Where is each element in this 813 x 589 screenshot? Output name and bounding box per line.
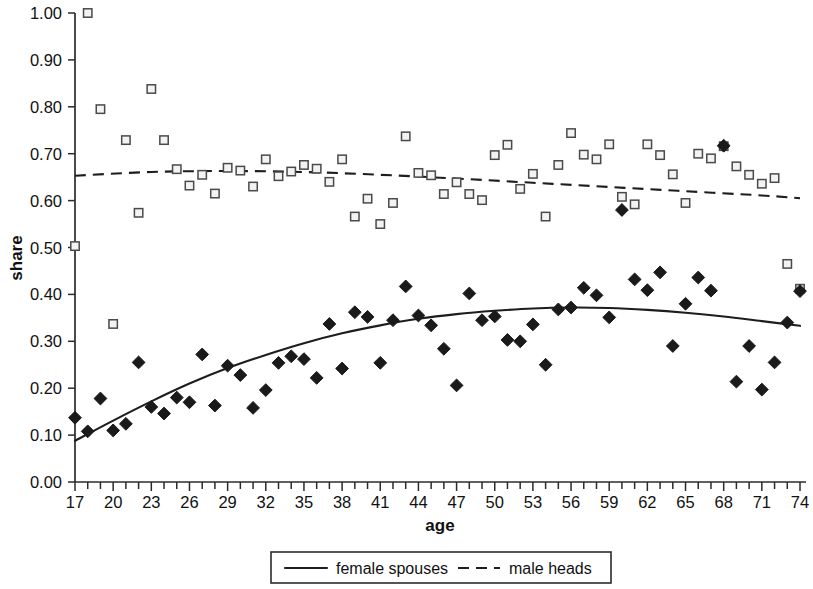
male-heads-marker	[554, 161, 562, 169]
male-heads-marker	[529, 170, 537, 178]
female-spouses-marker	[781, 316, 794, 329]
female-spouses-marker	[768, 356, 781, 369]
female-spouses-marker	[272, 356, 285, 369]
female-spouses-marker	[285, 350, 298, 363]
female-spouses-marker	[654, 266, 667, 279]
y-tick-label: 0.10	[30, 426, 62, 444]
legend-label-male-heads: male heads	[509, 560, 592, 577]
male-heads-marker	[122, 136, 130, 144]
male-heads-marker	[211, 189, 219, 197]
male-heads-marker	[351, 212, 359, 220]
x-tick-label: 53	[524, 493, 542, 511]
female-spouses-marker	[348, 306, 361, 319]
male-heads-marker	[681, 199, 689, 207]
female-spouses-marker	[616, 204, 629, 217]
male-heads-marker	[71, 242, 79, 250]
y-tick-label: 0.90	[30, 51, 62, 69]
male-heads-marker	[503, 141, 511, 149]
x-tick-label: 47	[447, 493, 465, 511]
male-heads-marker	[491, 151, 499, 159]
chart-legend: female spouses male heads	[271, 552, 611, 583]
x-tick-label: 23	[142, 493, 160, 511]
female-spouses-marker	[132, 356, 145, 369]
female-spouses-marker	[298, 353, 311, 366]
y-tick-label: 0.40	[30, 285, 62, 303]
female-spouses-marker	[399, 280, 412, 293]
female-spouses-marker	[196, 348, 209, 361]
female-spouses-marker	[501, 333, 514, 346]
female-spouses-marker	[514, 335, 527, 348]
female-spouses-marker	[94, 392, 107, 405]
female-spouses-marker	[603, 311, 616, 324]
y-tick-label: 0.50	[30, 239, 62, 257]
male-heads-marker	[312, 165, 320, 173]
male-heads-marker	[694, 150, 702, 158]
x-tick-label: 65	[676, 493, 694, 511]
female-spouses-marker	[755, 383, 768, 396]
female-spouses-marker	[374, 356, 387, 369]
male-heads-marker	[630, 200, 638, 208]
female-spouses-marker	[526, 318, 539, 331]
male-heads-marker	[84, 9, 92, 17]
male-heads-marker	[198, 171, 206, 179]
male-heads-marker	[402, 132, 410, 140]
male-heads-marker	[236, 166, 244, 174]
male-heads-marker	[96, 105, 104, 113]
y-tick-label: 0.70	[30, 145, 62, 163]
male-heads-marker	[732, 162, 740, 170]
male-heads-marker	[249, 182, 257, 190]
male-heads-marker	[300, 161, 308, 169]
y-tick-label: 0.30	[30, 332, 62, 350]
male-heads-marker	[541, 212, 549, 220]
female-spouses-marker	[743, 340, 756, 353]
x-tick-label: 59	[600, 493, 618, 511]
x-tick-label: 44	[409, 493, 427, 511]
x-tick-label: 50	[486, 493, 504, 511]
x-tick-label: 68	[715, 493, 733, 511]
x-tick-label: 74	[791, 493, 809, 511]
female-spouses-marker	[310, 371, 323, 384]
female-spouses-marker	[641, 284, 654, 297]
x-tick-label: 38	[333, 493, 351, 511]
female-spouses-marker	[666, 340, 679, 353]
female-spouses-marker	[336, 362, 349, 375]
female-spouses-data-points	[69, 139, 807, 437]
x-tick-label: 56	[562, 493, 580, 511]
x-tick-label: 26	[180, 493, 198, 511]
male-heads-marker	[363, 195, 371, 203]
female-spouses-marker	[552, 303, 565, 316]
female-spouses-marker	[590, 289, 603, 302]
female-spouses-marker	[209, 399, 222, 412]
female-spouses-marker	[692, 271, 705, 284]
y-tick-label: 0.80	[30, 98, 62, 116]
y-tick-label: 0.60	[30, 192, 62, 210]
male-heads-marker	[325, 178, 333, 186]
y-tick-label: 1.00	[30, 4, 62, 22]
female-spouses-fit-path	[75, 308, 800, 441]
female-spouses-marker	[323, 318, 336, 331]
male-heads-marker	[707, 154, 715, 162]
male-heads-marker	[173, 165, 181, 173]
y-tick-label: 0.20	[30, 379, 62, 397]
female-spouses-marker	[247, 402, 260, 415]
x-tick-label: 35	[295, 493, 313, 511]
y-tick-label: 0.00	[30, 473, 62, 491]
male-heads-marker	[147, 85, 155, 93]
female-spouses-trend-line	[75, 308, 800, 441]
male-heads-marker	[745, 171, 753, 179]
female-spouses-marker	[565, 301, 578, 314]
male-heads-marker	[656, 151, 664, 159]
male-heads-fit-path	[75, 171, 800, 198]
y-axis-title: share	[7, 235, 26, 280]
male-heads-marker	[338, 155, 346, 163]
female-spouses-marker	[679, 297, 692, 310]
male-heads-marker	[160, 136, 168, 144]
female-spouses-marker	[437, 342, 450, 355]
male-heads-marker	[452, 178, 460, 186]
x-tick-label: 17	[66, 493, 84, 511]
chart-figure: share age 0.000.100.200.300.400.500.600.…	[0, 0, 813, 589]
female-spouses-marker	[259, 384, 272, 397]
x-tick-label: 29	[218, 493, 236, 511]
x-tick-label: 62	[638, 493, 656, 511]
male-heads-marker	[478, 196, 486, 204]
